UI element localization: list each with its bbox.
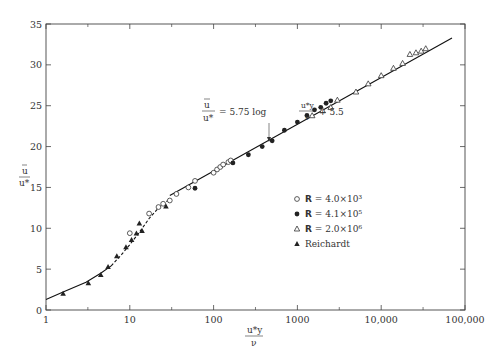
viscous-buffer-fit-line: [46, 266, 111, 300]
svg-text:Reichardt: Reichardt: [305, 239, 350, 249]
filled-circle-point: [270, 138, 275, 143]
filled-triangle-icon: [294, 241, 299, 246]
open-triangle-point: [413, 50, 419, 55]
open-triangle-icon: [294, 226, 299, 231]
open-circle-point: [193, 178, 198, 183]
filled-circle-point: [295, 120, 300, 125]
svg-text:R = 2.0×10⁶: R = 2.0×10⁶: [305, 224, 363, 234]
open-circle-point: [156, 205, 161, 210]
x-tick-label: 100: [205, 314, 223, 325]
filled-circle-point: [260, 144, 265, 149]
x-tick-label: 10,000: [365, 314, 398, 325]
filled-triangle-point: [86, 280, 92, 285]
open-circle-point: [221, 162, 226, 167]
y-tick-label: 20: [30, 141, 42, 152]
log-law-annotation: u u* = 5.75 log u*y ν + 5.5: [202, 99, 344, 142]
annotation-lhs-den: u*: [203, 113, 214, 123]
filled-triangle-point: [114, 253, 120, 258]
open-triangle-point: [391, 65, 397, 70]
y-tick-label: 0: [36, 305, 42, 316]
annotation-lhs-num: u: [204, 100, 210, 110]
open-triangle-point: [400, 60, 406, 65]
svg-text:u*y: u*y: [247, 325, 263, 335]
filled-circle-point: [282, 128, 287, 133]
filled-circle-point: [328, 98, 333, 103]
svg-text:R = 4.0×10³: R = 4.0×10³: [305, 194, 363, 204]
y-tick-label: 15: [30, 182, 42, 193]
x-tick-label: 10: [124, 314, 136, 325]
annotation-tail: + 5.5: [319, 107, 344, 117]
filled-triangle-point: [137, 221, 143, 226]
open-triangle-point: [335, 97, 341, 102]
x-tick-label: 1: [43, 314, 49, 325]
svg-text:R = 4.1×10⁵: R = 4.1×10⁵: [305, 209, 363, 219]
open-circle-point: [127, 231, 132, 236]
svg-text:u: u: [22, 166, 28, 176]
y-tick-label: 35: [30, 19, 42, 30]
annotation-middle: = 5.75 log: [219, 107, 267, 117]
open-triangle-point: [407, 51, 413, 56]
y-tick-label: 10: [30, 223, 42, 234]
y-axis-title: u u*: [19, 165, 30, 188]
y-tick-label: 30: [30, 59, 42, 70]
svg-text:u*: u*: [19, 178, 30, 188]
open-circle-point: [186, 185, 191, 190]
fit-lines: [46, 38, 452, 300]
x-axis-title: u*y ν: [245, 325, 263, 348]
filled-circle-point: [193, 186, 198, 191]
open-triangle-point: [353, 89, 359, 94]
svg-text:ν: ν: [251, 338, 256, 348]
annotation-frac-num: u*y: [301, 101, 315, 110]
filled-circle-point: [324, 101, 329, 106]
open-circle-point: [147, 211, 152, 216]
open-triangle-point: [378, 73, 384, 78]
axes: 110100100010,000100,00005101520253035: [30, 19, 485, 326]
filled-circle-point: [231, 161, 236, 166]
open-circle-point: [167, 198, 172, 203]
velocity-profile-chart: 110100100010,000100,00005101520253035 u …: [0, 0, 500, 352]
open-circle-point: [174, 192, 179, 197]
y-tick-label: 25: [30, 100, 42, 111]
filled-circle-icon: [295, 212, 300, 217]
open-circle-icon: [295, 197, 300, 202]
x-tick-label: 100,000: [445, 314, 484, 325]
filled-circle-point: [246, 152, 251, 157]
annotation-frac-den: ν: [305, 113, 310, 122]
open-triangle-point: [423, 46, 429, 51]
legend: R = 4.0×10³ R = 4.1×10⁵ R = 2.0×10⁶ Reic…: [294, 194, 362, 249]
y-tick-label: 5: [36, 264, 42, 275]
x-tick-label: 1000: [285, 314, 309, 325]
data-points: [60, 46, 428, 296]
filled-triangle-point: [129, 237, 135, 242]
